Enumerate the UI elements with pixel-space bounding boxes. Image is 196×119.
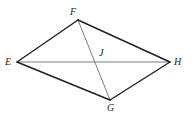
vertex-label-g: G <box>107 103 114 113</box>
segment-ef <box>17 20 78 62</box>
vertex-label-f: F <box>70 7 76 17</box>
vertex-label-e: E <box>5 57 11 67</box>
segment-ge <box>17 62 110 100</box>
geometry-figure: E F G H J <box>0 0 196 119</box>
vertex-label-h: H <box>174 57 181 67</box>
figure-canvas <box>0 0 196 119</box>
vertex-label-j: J <box>99 48 103 58</box>
segment-hg <box>110 62 170 100</box>
